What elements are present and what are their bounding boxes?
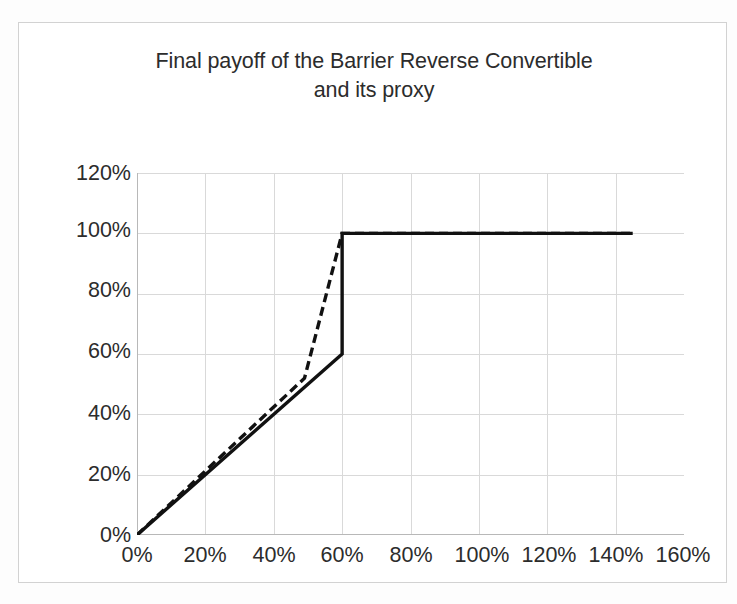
x-tick-60: 60% bbox=[320, 543, 363, 568]
x-tick-20: 20% bbox=[183, 543, 226, 568]
scanned-page: Final payoff of the Barrier Reverse Conv… bbox=[0, 0, 737, 604]
y-tick-120: 120% bbox=[53, 161, 131, 186]
x-axis-tick-labels: 0% 20% 40% 60% 80% 100% 120% 140% 160% bbox=[137, 543, 684, 583]
chart-frame: Final payoff of the Barrier Reverse Conv… bbox=[18, 22, 727, 583]
x-tick-100: 100% bbox=[455, 543, 510, 568]
x-tick-140: 140% bbox=[589, 543, 644, 568]
y-tick-0: 0% bbox=[53, 523, 131, 548]
y-tick-100: 100% bbox=[53, 218, 131, 243]
x-tick-120: 120% bbox=[522, 543, 577, 568]
x-tick-160: 160% bbox=[656, 543, 711, 568]
x-tick-40: 40% bbox=[252, 543, 295, 568]
y-axis-tick-labels: 120% 100% 80% 60% 40% 20% 0% bbox=[47, 173, 131, 535]
x-tick-0: 0% bbox=[121, 543, 152, 568]
y-tick-80: 80% bbox=[53, 278, 131, 303]
y-tick-60: 60% bbox=[53, 339, 131, 364]
y-tick-40: 40% bbox=[53, 401, 131, 426]
plot-area bbox=[137, 173, 684, 535]
x-tick-80: 80% bbox=[389, 543, 432, 568]
chart-title: Final payoff of the Barrier Reverse Conv… bbox=[79, 47, 669, 105]
chart-title-line-1: Final payoff of the Barrier Reverse Conv… bbox=[155, 49, 592, 73]
chart-title-line-2: and its proxy bbox=[314, 78, 435, 102]
y-tick-20: 20% bbox=[53, 462, 131, 487]
payoff-chart-svg bbox=[137, 173, 684, 535]
